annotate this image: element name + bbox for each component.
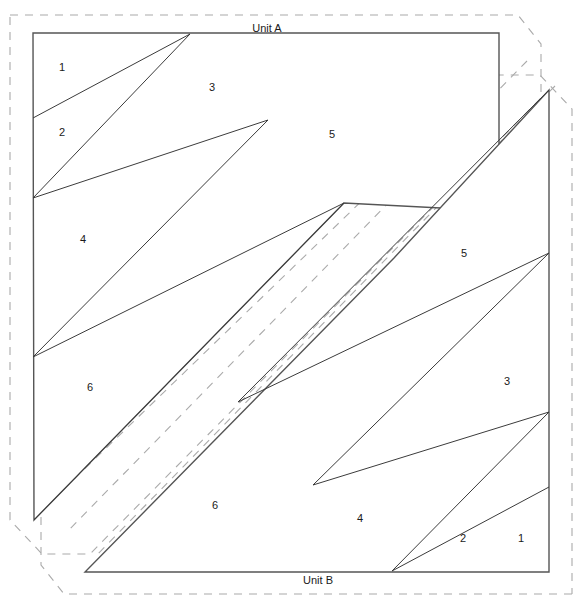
unit-b-region-label-4: 4: [357, 512, 363, 524]
unit-b-region-label-3: 3: [504, 375, 510, 387]
unit-b-region-label-1: 1: [518, 532, 524, 544]
unit-a-region-label-1: 1: [59, 61, 65, 73]
unit-a-region-label-4: 4: [80, 233, 86, 245]
unit-b-title: Unit B: [303, 574, 333, 586]
pattern-diagram: 1 2 3 4 5 6 Unit A 1 2 3 4 5 6 Unit B: [0, 0, 582, 610]
unit-a-region-label-2: 2: [59, 126, 65, 138]
unit-a-region-label-6: 6: [87, 381, 93, 393]
unit-b-region-label-6: 6: [212, 499, 218, 511]
unit-b-region-label-5: 5: [461, 247, 467, 259]
unit-b-region-label-2: 2: [460, 532, 466, 544]
unit-a-title: Unit A: [252, 22, 282, 34]
unit-a-region-label-3: 3: [209, 81, 215, 93]
pattern-sheet: 1 2 3 4 5 6 Unit A 1 2 3 4 5 6 Unit B: [0, 0, 582, 610]
unit-a-region-label-5: 5: [329, 128, 335, 140]
